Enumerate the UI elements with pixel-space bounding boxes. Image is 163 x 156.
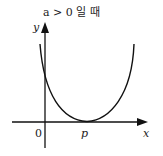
condition-title: a > 0 일 때 [43, 5, 100, 19]
x-axis-label: x [143, 127, 150, 140]
parabola-curve [40, 44, 134, 122]
y-axis-label: y [32, 21, 40, 34]
x-axis-arrow-icon [137, 118, 148, 126]
origin-label: 0 [35, 127, 42, 140]
y-axis-arrow-icon [41, 22, 49, 33]
vertex-label: p [81, 127, 88, 140]
parabola-diagram: a > 0 일 때 y x 0 p [0, 0, 163, 156]
